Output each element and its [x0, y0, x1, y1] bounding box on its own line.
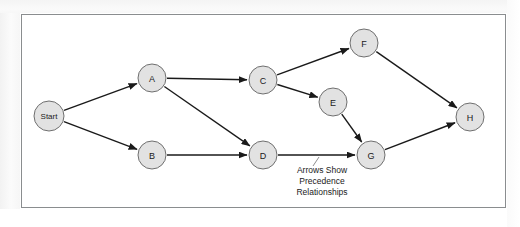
node-c-label: C	[260, 76, 267, 86]
annotation-line-3: Relationships	[296, 187, 347, 197]
annotation-line-2: Precedence	[299, 176, 345, 186]
edge-layer	[64, 49, 457, 155]
node-start-label: Start	[41, 112, 59, 121]
node-e-label: E	[330, 98, 336, 108]
node-f[interactable]: F	[350, 29, 378, 57]
node-layer: StartABCDEFGH	[34, 29, 484, 169]
node-d[interactable]: D	[249, 141, 277, 169]
edge-c-to-e	[277, 84, 317, 97]
node-a-label: A	[149, 74, 155, 84]
edge-start-to-a	[64, 84, 137, 111]
edge-f-to-h	[376, 52, 457, 108]
node-f-label: F	[361, 39, 367, 49]
node-e[interactable]: E	[319, 88, 347, 116]
annotation-line-1: Arrows Show	[297, 165, 348, 175]
edge-e-to-g	[342, 114, 362, 142]
edge-c-to-f	[277, 49, 349, 75]
node-h-label: H	[467, 113, 474, 123]
edge-a-to-c	[167, 78, 247, 79]
figure-page: StartABCDEFGH Arrows ShowPrecedenceRelat…	[0, 0, 520, 227]
node-h[interactable]: H	[456, 103, 484, 131]
edge-a-to-d	[164, 87, 250, 146]
annotation-layer: Arrows ShowPrecedenceRelationships	[296, 157, 347, 197]
node-start[interactable]: Start	[34, 101, 64, 131]
node-g[interactable]: G	[357, 141, 385, 169]
precedence-network-diagram: StartABCDEFGH Arrows ShowPrecedenceRelat…	[0, 0, 520, 227]
node-b[interactable]: B	[138, 141, 166, 169]
node-b-label: B	[149, 151, 155, 161]
node-c[interactable]: C	[249, 66, 277, 94]
node-a[interactable]: A	[138, 64, 166, 92]
edge-start-to-b	[64, 122, 137, 150]
edge-g-to-h	[385, 123, 455, 150]
node-d-label: D	[260, 151, 267, 161]
node-g-label: G	[367, 151, 374, 161]
